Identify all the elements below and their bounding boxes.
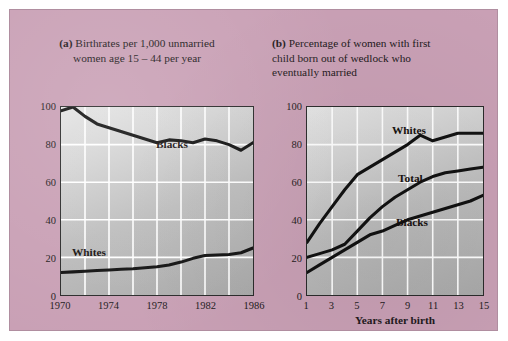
panel-b-label-total: Total [398,172,423,184]
panel-b-x-axis-title: Years after birth [306,314,484,326]
panel-b-y-tick: 60 [292,177,303,188]
figure-panel: (a) Birthrates per 1,000 unmarried women… [9,9,498,331]
panel-b-x-tick: 15 [479,300,490,311]
panel-b-series-total-line [307,167,483,257]
panel-b-y-tick: 20 [292,253,303,264]
panel-a-chart-svg [61,107,253,295]
panel-a-y-tick: 100 [40,101,56,112]
panel-b-x-tick: 7 [380,300,385,311]
panel-b-caption-line3: eventually married [272,66,357,78]
panel-b-x-tick: 5 [354,300,359,311]
panel-b-y-axis-labels: 020406080100 [272,106,302,296]
panel-b-caption: (b) Percentage of women with first child… [272,36,496,80]
panel-b-label-whites: Whites [392,124,426,136]
panel-b-x-tick: 13 [453,300,464,311]
panel-a-x-tick: 1974 [98,300,119,311]
chart-panel-a: (a) Birthrates per 1,000 unmarried women… [10,10,258,332]
panel-a-y-tick: 80 [46,139,57,150]
panel-b-tag: (b) [272,37,286,49]
panel-b-y-tick: 0 [297,291,302,302]
panel-b-y-tick: 100 [286,101,302,112]
panel-a-caption-line2: women age 15 – 44 per year [73,52,201,64]
panel-b-x-tick: 3 [329,300,334,311]
panel-b-label-blacks: Blacks [396,216,428,228]
panel-a-y-axis-labels: 020406080100 [26,106,56,296]
panel-b-x-tick: 9 [405,300,410,311]
panel-b-y-tick: 80 [292,139,303,150]
panel-b-caption-line2: child born out of wedlock who [272,52,411,64]
panel-a-x-tick: 1982 [195,300,216,311]
panel-b-plot-area: Whites Total Blacks [306,106,484,296]
panel-a-x-tick: 1970 [50,300,71,311]
panel-a-caption-line1: Birthrates per 1,000 unmarried [75,37,214,49]
panel-a-caption: (a) Birthrates per 1,000 unmarried women… [28,36,246,65]
panel-a-y-tick: 40 [46,215,57,226]
panel-a-plot-area: Blacks Whites [60,106,254,296]
chart-panel-b: (b) Percentage of women with first child… [258,10,499,332]
panel-a-tag: (a) [59,37,72,49]
panel-a-y-tick: 60 [46,177,57,188]
panel-a-plot-background [60,106,254,296]
panel-b-x-tick: 11 [428,300,438,311]
panel-b-x-tick: 1 [303,300,308,311]
panel-a-x-tick: 1978 [147,300,168,311]
panel-a-label-blacks: Blacks [156,138,188,150]
panel-a-label-whites: Whites [72,246,106,258]
panel-a-y-tick: 20 [46,253,57,264]
panel-b-y-tick: 40 [292,215,303,226]
panel-b-caption-line1: Percentage of women with first [289,37,431,49]
